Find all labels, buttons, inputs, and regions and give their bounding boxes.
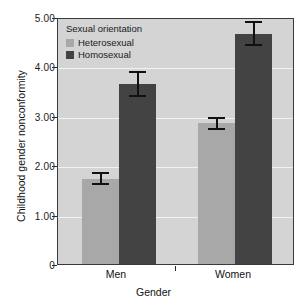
error-bar-cap-bottom [92,183,109,185]
legend-label-homosexual: Homosexual [78,49,131,62]
legend-swatch-homosexual [66,51,74,59]
error-bar-cap-top [208,117,225,119]
x-axis-tick-label-women: Women [215,268,251,280]
error-bar-stem [253,21,255,46]
legend: Sexual orientation Heterosexual Homosexu… [66,23,142,62]
bar-women-homosexual [235,34,272,264]
y-axis-title: Childhood gender nonconformity [15,21,27,271]
error-bar-cap-bottom [129,95,146,97]
error-bar-cap-top [92,172,109,174]
error-bar-cap-top [245,21,262,23]
legend-title: Sexual orientation [66,23,142,36]
bar-men-homosexual [119,84,156,264]
plot-area: Sexual orientation Heterosexual Homosexu… [57,18,294,265]
error-bar-men-homosexual [129,71,146,97]
legend-item-homosexual: Homosexual [66,49,142,62]
x-axis-tick-label-men: Men [106,268,126,280]
error-bar-women-homosexual [245,21,262,46]
error-bar-men-heterosexual [92,172,109,186]
error-bar-women-heterosexual [208,117,225,130]
error-bar-cap-bottom [245,44,262,46]
error-bar-cap-bottom [208,128,225,130]
y-axis-tick-mark-0 [52,265,57,266]
bar-women-heterosexual [198,123,235,264]
bar-chart: 0 1.00 2.00 3.00 4.00 5.00 Childhood gen… [0,0,307,303]
legend-label-heterosexual: Heterosexual [78,37,134,50]
legend-swatch-heterosexual [66,39,74,47]
x-axis-title: Gender [0,286,307,298]
bar-men-heterosexual [82,179,119,265]
error-bar-stem [137,71,139,97]
x-axis-tick-mark-center [175,266,176,271]
legend-item-heterosexual: Heterosexual [66,37,142,50]
error-bar-cap-top [129,71,146,73]
